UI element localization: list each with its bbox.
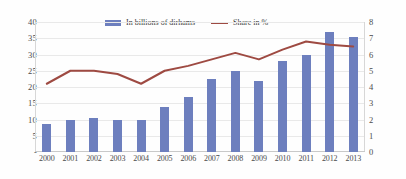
right-axis-tick: 4 xyxy=(369,83,391,92)
left-axis-tick: 25 xyxy=(11,67,37,76)
left-axis-tick: 35 xyxy=(11,34,37,43)
right-axis-tick: 1 xyxy=(369,132,391,141)
left-axis-tick: 20 xyxy=(11,83,37,92)
left-axis-tick: 40 xyxy=(11,18,37,27)
x-axis-tick-label: 2012 xyxy=(318,154,342,163)
line-path xyxy=(47,42,353,84)
x-axis-tick-label: 2009 xyxy=(247,154,271,163)
combo-bar-line-chart: In billions of dirhams Share in % 403530… xyxy=(0,0,406,179)
x-axis-tick-label: 2011 xyxy=(294,154,318,163)
x-axis-tick-label: 2008 xyxy=(224,154,248,163)
x-axis-tick-label: 2013 xyxy=(342,154,366,163)
right-axis-tick: 8 xyxy=(369,18,391,27)
left-axis-tick: 5 xyxy=(11,132,37,141)
x-axis-tick-label: 2005 xyxy=(153,154,177,163)
x-axis-tick-label: 2010 xyxy=(271,154,295,163)
x-axis-labels: 2000200120022003200420052006200720082009… xyxy=(35,154,365,163)
left-axis-tick: 15 xyxy=(11,99,37,108)
x-axis-tick-label: 2007 xyxy=(200,154,224,163)
x-axis-tick-label: 2003 xyxy=(106,154,130,163)
right-axis-tick: 7 xyxy=(369,34,391,43)
right-axis-tick: 0 xyxy=(369,148,391,157)
right-axis-tick: 2 xyxy=(369,115,391,124)
left-axis-tick: 10 xyxy=(11,115,37,124)
right-axis-tick: 5 xyxy=(369,67,391,76)
right-axis-tick: 3 xyxy=(369,99,391,108)
x-axis-tick-label: 2000 xyxy=(35,154,59,163)
x-axis-tick-label: 2004 xyxy=(129,154,153,163)
plot-area xyxy=(35,22,365,152)
x-axis-tick-label: 2001 xyxy=(59,154,83,163)
left-axis-tick: 30 xyxy=(11,50,37,59)
left-axis-tick: - xyxy=(11,148,37,157)
right-axis-tick: 6 xyxy=(369,50,391,59)
line-series xyxy=(35,22,365,152)
x-axis-tick-label: 2006 xyxy=(176,154,200,163)
x-axis-tick-label: 2002 xyxy=(82,154,106,163)
